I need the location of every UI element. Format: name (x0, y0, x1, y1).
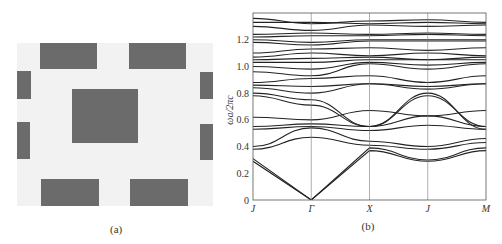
x-tick-label-J: J (251, 203, 256, 214)
y-axis-label: ωa/2πc (224, 95, 235, 125)
y-tick-label: 0.6 (237, 114, 250, 125)
x-tick-label-X: X (365, 203, 373, 214)
y-tick-label: 0.8 (237, 88, 250, 99)
y-tick-label: 0 (244, 195, 249, 206)
x-tick-label-Γ: Γ (307, 203, 314, 214)
x-axis-labels: JΓXJM (251, 203, 491, 214)
x-tick-label-M: M (481, 203, 491, 214)
y-axis-ticks: 00.20.40.60.81.01.2 (237, 34, 250, 205)
panel-b-band-diagram: 00.20.40.60.81.01.2 JΓXJM ωa/2πc (b) (0, 0, 502, 244)
y-tick-label: 1.0 (237, 61, 250, 72)
panel-b-caption: (b) (362, 220, 375, 233)
y-tick-label: 0.4 (237, 141, 250, 152)
y-tick-label: 1.2 (237, 34, 250, 45)
y-tick-label: 0.2 (237, 168, 250, 179)
x-tick-label-J: J (426, 203, 431, 214)
